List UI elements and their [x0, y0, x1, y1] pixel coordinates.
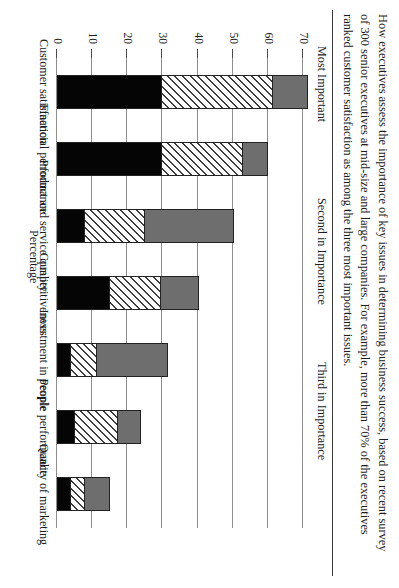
- bar-segment-third[interactable]: [85, 477, 110, 511]
- axis-tick-label: 70: [297, 18, 310, 44]
- bar-segment-third[interactable]: [273, 75, 308, 109]
- bar-segment-second[interactable]: [110, 276, 161, 310]
- bar-segment-third[interactable]: [97, 343, 167, 377]
- axis-tick-label: 20: [121, 18, 134, 44]
- bar-segment-second[interactable]: [162, 75, 273, 109]
- category-axis-labels: Customer satisfactionFinancial performan…: [0, 58, 51, 528]
- legend-item-second-in-importance: Second in Importance: [314, 198, 329, 305]
- legend-item-most-important: Most Important: [314, 46, 329, 122]
- axis-tick-label: 30: [156, 18, 169, 44]
- plot-area: Most Important Second in Importance Thir…: [7, 10, 333, 576]
- bar-segment-most[interactable]: [57, 75, 162, 109]
- bar-segment-second[interactable]: [71, 477, 85, 511]
- axis-tick: [302, 49, 303, 58]
- axis-tick-label: 50: [227, 18, 240, 44]
- figure-caption: How executives assess the importance of …: [338, 14, 391, 570]
- bar-segment-third[interactable]: [161, 276, 200, 310]
- value-axis-title: Percentage: [26, 230, 41, 283]
- category-label: Quality of marketing: [36, 494, 51, 588]
- category-label-text: Quality of marketing: [36, 444, 51, 545]
- chart-figure: How executives assess the importance of …: [0, 0, 399, 588]
- legend-item-third-in-importance: Third in Importance: [314, 362, 329, 460]
- bar-segment-most[interactable]: [57, 477, 71, 511]
- axis-tick: [56, 49, 57, 58]
- bar-segment-third[interactable]: [243, 142, 268, 176]
- stacked-bar[interactable]: [57, 410, 141, 444]
- axis-tick: [126, 49, 127, 58]
- rotated-figure-frame: How executives assess the importance of …: [0, 0, 399, 588]
- axis-tick-label: 60: [262, 18, 275, 44]
- bar-segment-third[interactable]: [118, 410, 141, 444]
- bar-segment-most[interactable]: [57, 209, 85, 243]
- bar-series-group: [57, 58, 303, 528]
- stacked-bar[interactable]: [57, 276, 199, 310]
- bar-segment-most[interactable]: [57, 410, 75, 444]
- stacked-bar[interactable]: [57, 75, 308, 109]
- chart-legend: Most Important Second in Importance Thir…: [309, 10, 329, 576]
- bar-segment-second[interactable]: [85, 209, 145, 243]
- bar-segment-most[interactable]: [57, 142, 162, 176]
- bar-segment-most[interactable]: [57, 343, 71, 377]
- axis-tick: [232, 49, 233, 58]
- axis-tick-label: 40: [192, 18, 205, 44]
- caption-line-1: How executives assess the importance of …: [373, 14, 391, 570]
- caption-line-3: ranked customer satisfaction as among th…: [338, 14, 356, 570]
- bar-segment-third[interactable]: [145, 209, 235, 243]
- axis-tick: [197, 49, 198, 58]
- bar-segment-second[interactable]: [71, 343, 97, 377]
- axis-tick: [91, 49, 92, 58]
- axis-tick-label: 10: [86, 18, 99, 44]
- axis-tick-label: 0: [51, 18, 64, 44]
- bar-segment-most[interactable]: [57, 276, 110, 310]
- axis-tick: [161, 49, 162, 58]
- stacked-bar[interactable]: [57, 477, 110, 511]
- bar-segment-second[interactable]: [162, 142, 243, 176]
- stacked-bar[interactable]: [57, 343, 168, 377]
- caption-line-2: of 300 senior executives at mid-size and…: [356, 14, 374, 570]
- stacked-bar[interactable]: [57, 209, 234, 243]
- stacked-bar[interactable]: [57, 142, 268, 176]
- bar-segment-second[interactable]: [75, 410, 119, 444]
- axis-tick: [267, 49, 268, 58]
